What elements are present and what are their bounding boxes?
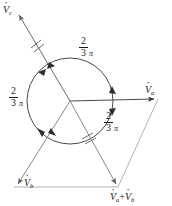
phasor-va-symbol: V — [145, 85, 151, 95]
angle-lower-right-numerator: 2 — [106, 111, 111, 121]
angle-top-numerator: 2 — [81, 36, 86, 46]
angle-left-pi-symbol: π — [19, 99, 23, 108]
resultant-symbol-2: V — [125, 192, 131, 202]
phasor-vb-subscript: b — [30, 182, 33, 189]
resultant-subscript-2: b — [131, 196, 134, 203]
angle-top-pi-symbol: π — [89, 49, 93, 58]
arc-arrowhead-upperleft-b — [47, 62, 55, 69]
phasor-vb-symbol: V — [24, 178, 30, 188]
phasor-label-vb: Vb — [24, 178, 33, 190]
angle-lower-right-denominator: 3 — [106, 123, 111, 133]
tick-mark-resultant — [82, 133, 96, 144]
phasor-label-va: Va — [145, 85, 154, 97]
phasor-va-line — [70, 99, 154, 101]
angle-label-left: 2 3 π — [9, 86, 23, 108]
angle-lower-right-pi-symbol: π — [114, 124, 118, 133]
construction-line-right — [118, 99, 158, 187]
angle-left-numerator: 2 — [11, 86, 16, 96]
phasor-vc-subscript: c — [9, 9, 12, 16]
arc-arrowhead-upperleft-a — [38, 69, 46, 76]
angle-top-denominator: 3 — [81, 48, 86, 58]
resultant-label-va-plus-vb: Va+Vb — [110, 192, 134, 204]
angle-left-denominator: 3 — [11, 98, 16, 108]
phasor-diagram-figure: Vc Va Vb Va+Vb 2 3 π 2 3 π 2 3 π — [0, 0, 172, 206]
resultant-symbol-1: V — [110, 192, 116, 202]
phasor-va-subscript: a — [151, 89, 154, 96]
arc-arrowhead-right-upper — [109, 86, 116, 94]
angle-label-top: 2 3 π — [79, 36, 93, 58]
phasor-vc-line — [19, 15, 70, 101]
angle-label-lower-right: 2 3 π — [104, 111, 118, 133]
phasor-label-vc: Vc — [3, 5, 12, 17]
phasor-vc-symbol: V — [3, 5, 9, 15]
